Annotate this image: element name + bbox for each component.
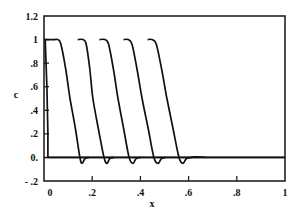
x-tick-label: 1 [283, 187, 288, 198]
y-tick-label: 1 [33, 34, 38, 45]
x-tick-label: .4 [137, 187, 145, 198]
y-tick-label: .2 [31, 128, 39, 139]
y-axis-label: c [14, 89, 19, 100]
y-tick-label: 0. [31, 152, 39, 163]
x-tick-label: .8 [233, 187, 241, 198]
y-tick-label: .8 [31, 58, 39, 69]
x-tick-label: 0 [48, 187, 53, 198]
x-axis-label: x [150, 198, 155, 209]
series-line-initial-step [44, 40, 285, 158]
data-series [44, 39, 285, 163]
y-tick-label: 1.2 [26, 11, 39, 22]
x-tick-label: .2 [88, 187, 96, 198]
concentration-profile-chart: 0.2.4.6.811.21.8.6.4.20.- .2 x c [0, 0, 299, 214]
x-tick-label: .6 [185, 187, 193, 198]
series-line-profile-2 [78, 39, 114, 163]
y-tick-label: .6 [31, 81, 39, 92]
series-line-profile-1 [44, 39, 89, 163]
y-tick-label: .4 [31, 105, 39, 116]
series-line-profile-5 [148, 39, 206, 163]
y-tick-label: - .2 [25, 176, 38, 187]
tick-labels: 0.2.4.6.811.21.8.6.4.20.- .2 [25, 11, 288, 199]
